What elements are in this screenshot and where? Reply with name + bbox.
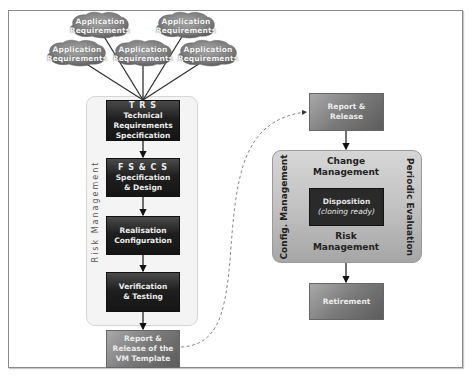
config-management-label: Config. Management <box>274 150 294 263</box>
realisation-box: Realisation Configuration <box>106 216 180 255</box>
disposition-box: Disposition (cloning ready) <box>309 188 384 226</box>
app-requirements-cloud-4: Application Requirements <box>115 43 171 65</box>
app-requirements-cloud-1: Application Requirements <box>72 15 128 37</box>
change-management-label: Change Management <box>296 156 396 178</box>
fs-cs-box: F S & C S Specification & Design <box>106 158 180 197</box>
retirement-box: Retirement <box>309 283 384 320</box>
periodic-evaluation-label: Periodic Evaluation <box>400 150 420 263</box>
trs-box: T R S Technical Requirements Specificati… <box>106 100 180 141</box>
verification-box: Verification & Testing <box>106 272 180 312</box>
app-requirements-cloud-3: Application Requirements <box>49 43 105 65</box>
report-release-vm-box: Report & Release of the VM Template <box>106 330 180 368</box>
report-release-box: Report & Release <box>309 93 384 131</box>
app-requirements-cloud-2: Application Requirements <box>158 15 214 37</box>
risk-management-sublabel: Risk Management <box>296 231 396 253</box>
app-requirements-cloud-5: Application Requirements <box>180 43 236 65</box>
